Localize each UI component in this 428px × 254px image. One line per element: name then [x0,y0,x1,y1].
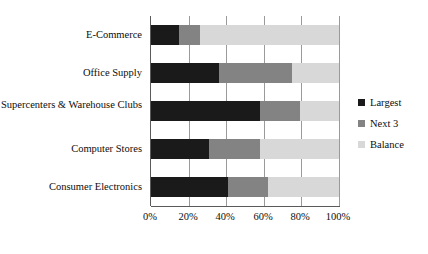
gridline [339,16,340,206]
legend-label: Largest [370,97,401,109]
value-axis-tick-labels: 0%20%40%60%80%100% [150,210,338,228]
category-label: Supercenters & Warehouse Clubs [0,99,142,112]
legend-item[interactable]: Largest [358,92,428,113]
stacked-bar[interactable] [151,139,339,159]
bar-row [151,92,339,130]
stacked-bar[interactable] [151,177,339,197]
legend-item[interactable]: Next 3 [358,113,428,134]
bar-segment-largest[interactable] [151,101,260,121]
stacked-bar[interactable] [151,63,339,83]
stacked-bar[interactable] [151,25,339,45]
bar-segment-next-3[interactable] [228,177,267,197]
bar-segment-largest[interactable] [151,63,219,83]
legend-swatch-icon [358,99,365,106]
category-label: Computer Stores [0,143,142,156]
stacked-bar[interactable] [151,101,339,121]
bar-segment-largest[interactable] [151,25,179,45]
chart-legend: LargestNext 3Balance [358,92,428,155]
bar-segment-next-3[interactable] [219,63,292,83]
bar-row [151,130,339,168]
bar-segment-balance[interactable] [300,101,339,121]
value-axis-line [151,206,340,207]
category-axis: E-CommerceOffice SupplySupercenters & Wa… [0,16,146,206]
category-label: E-Commerce [0,29,142,42]
value-axis-tick-label: 100% [316,210,360,224]
bar-segment-balance[interactable] [268,177,339,197]
legend-swatch-icon [358,141,365,148]
bar-row [151,54,339,92]
legend-item[interactable]: Balance [358,134,428,155]
category-label: Office Supply [0,67,142,80]
plot-area [150,16,339,206]
bar-segment-largest[interactable] [151,177,228,197]
bar-row [151,168,339,206]
bar-segment-next-3[interactable] [260,101,299,121]
bar-segment-next-3[interactable] [179,25,200,45]
bar-segment-balance[interactable] [292,63,339,83]
legend-label: Balance [370,139,404,151]
category-label: Consumer Electronics [0,181,142,194]
bar-segment-balance[interactable] [260,139,339,159]
legend-label: Next 3 [370,118,398,130]
legend-swatch-icon [358,120,365,127]
bar-segment-largest[interactable] [151,139,209,159]
bar-segment-next-3[interactable] [209,139,260,159]
bar-segment-balance[interactable] [200,25,339,45]
bar-row [151,16,339,54]
stacked-bar-chart: E-CommerceOffice SupplySupercenters & Wa… [0,0,428,254]
